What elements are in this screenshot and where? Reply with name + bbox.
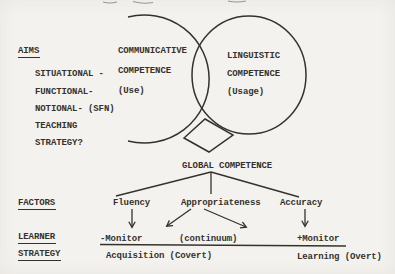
linguistic-competence-line2: COMPETENCE [227, 69, 280, 79]
linguistic-competence-usage: (Usage) [227, 87, 264, 97]
continuum-label: (continuum) [179, 234, 237, 244]
factor-fluency: Fluency [113, 198, 150, 208]
monitor-minus-label: -Monitor [100, 234, 142, 244]
appropriateness-right-arrow [204, 209, 246, 227]
global-competence-label: GLOBAL COMPETENCE [182, 161, 272, 171]
continuum-line [100, 245, 346, 247]
learner-heading: LEARNER [18, 232, 56, 244]
aims-heading: AIMS [18, 46, 40, 58]
factors-heading: FACTORS [18, 198, 56, 210]
scanned-figure-page: AIMS SITUATIONAL - FUNCTIONAL- NOTIONAL-… [0, 0, 395, 274]
aims-item-situational: SITUATIONAL - [35, 69, 104, 79]
aims-item-teaching: TEACHING [35, 121, 77, 131]
communicative-competence-use: (Use) [118, 86, 145, 96]
communicative-competence-line2: COMPETENCE [118, 66, 171, 76]
aims-item-notional: NOTIONAL- (SFN) [35, 104, 115, 114]
page-crop-remnant-marks [103, 1, 246, 3]
learning-overt-label: Learning (Overt) [297, 252, 382, 262]
aims-item-strategy-q: STRATEGY? [35, 138, 83, 148]
factor-arrows [132, 209, 305, 227]
factor-accuracy: Accuracy [280, 198, 322, 208]
monitor-plus-label: +Monitor [297, 234, 339, 244]
communicative-competence-line1: COMMUNICATIVE [118, 46, 187, 56]
venn-communicative-circle [128, 15, 209, 143]
global-to-factors-fan [116, 172, 299, 197]
linguistic-competence-line1: LINGUISTIC [227, 51, 280, 61]
diagram-linework [0, 0, 395, 274]
factor-appropriateness: Appropriateness [181, 198, 261, 208]
aims-item-functional: FUNCTIONAL- [35, 87, 93, 97]
acquisition-covert-label: Acquisition (Covert) [106, 251, 212, 261]
strategy-heading: STRATEGY [18, 249, 61, 261]
appropriateness-left-arrow [167, 209, 191, 226]
